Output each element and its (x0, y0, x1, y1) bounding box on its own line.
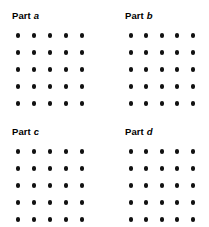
dot (80, 84, 84, 88)
dot (175, 149, 179, 153)
dot (191, 183, 195, 187)
dot (16, 33, 20, 37)
panel-part-c: Part c (10, 126, 100, 226)
dot (64, 84, 68, 88)
dot (175, 217, 179, 221)
panel-label-b: Part b (125, 10, 209, 21)
dot (129, 166, 133, 170)
panel-label-letter-a: a (34, 10, 39, 21)
dot (191, 84, 195, 88)
dot-grid-b (123, 27, 203, 112)
dot (48, 149, 52, 153)
dot (32, 183, 36, 187)
dot (144, 200, 148, 204)
dot (144, 166, 148, 170)
dot (32, 166, 36, 170)
dot (80, 166, 84, 170)
dot (129, 50, 133, 54)
dot (48, 84, 52, 88)
dot (129, 183, 133, 187)
dot (160, 183, 164, 187)
dot (175, 67, 179, 71)
dot (160, 217, 164, 221)
panel-label-word-d: Part (125, 126, 144, 137)
dot (144, 217, 148, 221)
dot (160, 33, 164, 37)
dot (175, 84, 179, 88)
dot (160, 200, 164, 204)
panel-label-a: Part a (12, 10, 100, 21)
panel-label-d: Part d (125, 126, 209, 137)
dot (129, 67, 133, 71)
dot (80, 50, 84, 54)
dot (191, 50, 195, 54)
dot (129, 217, 133, 221)
dot (80, 183, 84, 187)
dot (191, 101, 195, 105)
dot (64, 166, 68, 170)
dot (160, 166, 164, 170)
dot (32, 84, 36, 88)
dot (16, 67, 20, 71)
dot (32, 217, 36, 221)
dot (144, 183, 148, 187)
dot (64, 67, 68, 71)
dot (16, 217, 20, 221)
dot (191, 33, 195, 37)
panel-part-a: Part a (10, 10, 100, 110)
dot (80, 101, 84, 105)
dot (191, 166, 195, 170)
dot (175, 50, 179, 54)
dot-grid-c (10, 143, 90, 227)
dot (144, 67, 148, 71)
dot (191, 200, 195, 204)
dot (32, 67, 36, 71)
dot (129, 200, 133, 204)
dot (160, 101, 164, 105)
dot (160, 50, 164, 54)
dot (16, 84, 20, 88)
dot (144, 50, 148, 54)
dot (64, 200, 68, 204)
dot (48, 33, 52, 37)
dot (64, 50, 68, 54)
dot (175, 200, 179, 204)
dot (175, 166, 179, 170)
dot (64, 217, 68, 221)
dot (160, 149, 164, 153)
dot (32, 149, 36, 153)
dot (80, 33, 84, 37)
dot (48, 101, 52, 105)
dot (144, 84, 148, 88)
dot (80, 217, 84, 221)
panel-part-b: Part b (123, 10, 209, 110)
dot (32, 101, 36, 105)
dot (16, 101, 20, 105)
dot (32, 33, 36, 37)
panel-label-letter-c: c (34, 126, 39, 137)
dot (48, 166, 52, 170)
dot (191, 67, 195, 71)
dot (48, 67, 52, 71)
dot (16, 50, 20, 54)
panel-label-word-a: Part (12, 10, 31, 21)
dot (175, 33, 179, 37)
dot (16, 183, 20, 187)
dot (129, 33, 133, 37)
dot (48, 217, 52, 221)
dot (48, 50, 52, 54)
dot (80, 200, 84, 204)
panel-label-c: Part c (12, 126, 100, 137)
dot (144, 33, 148, 37)
dot (175, 101, 179, 105)
dot (48, 200, 52, 204)
dot (129, 101, 133, 105)
dot (64, 33, 68, 37)
panel-label-word-c: Part (12, 126, 31, 137)
dot (160, 84, 164, 88)
dot (64, 101, 68, 105)
dot (64, 149, 68, 153)
dot (32, 50, 36, 54)
panel-label-word-b: Part (125, 10, 144, 21)
dot-array-figure: Part a Part b Part c Part d (0, 0, 209, 227)
